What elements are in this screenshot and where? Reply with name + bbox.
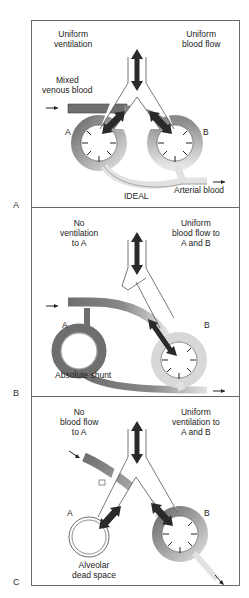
panel-absolute-shunt: Noventilationto A Uniformblood flow toA … [31, 207, 240, 397]
alveolus-a-label: A [67, 508, 73, 518]
arterial-blood-label: Arterial blood [174, 185, 224, 195]
absolute-shunt-caption: Absolute shunt [55, 370, 111, 380]
panel-dead-space: Noblood flowto A Uniformventilation toA … [31, 396, 240, 586]
alveolus-b-label: B [203, 127, 209, 137]
panel-label-a: A [13, 200, 19, 210]
panel-label-b: B [13, 388, 19, 398]
mixed-venous-blood-label: Mixedvenous blood [42, 75, 93, 95]
venous-inflow-vessel [68, 104, 127, 113]
alveolus-b-label: B [204, 320, 210, 330]
uniform-ventilation-label: Uniformventilation toA and B [172, 407, 220, 437]
obstruction-marker [99, 480, 105, 485]
ideal-caption: IDEAL [124, 191, 149, 201]
uniform-ventilation-label: Uniformventilation [54, 29, 92, 49]
uniform-blood-flow-label: Uniformblood flow [182, 29, 220, 49]
panel-label-c: C [13, 577, 20, 587]
no-ventilation-label: Noventilationto A [60, 218, 98, 248]
alveolus-a-label: A [65, 127, 71, 137]
alveolus-b-label: B [204, 508, 210, 518]
alveolar-dead-space-caption: Alveolardead space [72, 560, 116, 580]
no-blood-flow-label: Noblood flowto A [60, 407, 98, 437]
panel-ideal: Uniformventilation Uniformblood flow Mix… [31, 20, 240, 208]
ideal-lung-unit-diagram [32, 21, 241, 209]
uniform-blood-flow-label: Uniformblood flow toA and B [172, 218, 220, 248]
alveolus-a-label: A [62, 320, 68, 330]
